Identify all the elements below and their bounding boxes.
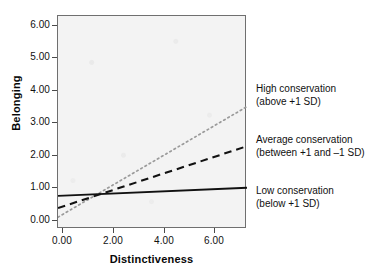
x-tick-label-2: 2.00 <box>93 235 133 246</box>
y-tick-mark-3 <box>52 122 57 123</box>
y-tick-mark-6 <box>52 25 57 26</box>
legend-label-high-line2: (above +1 SD) <box>256 96 388 109</box>
y-tick-label-5: 5.00 <box>16 51 50 62</box>
y-tick-label-6: 6.00 <box>16 19 50 30</box>
plot-lines <box>58 16 247 229</box>
x-tick-mark-6 <box>214 228 215 233</box>
x-tick-mark-0 <box>62 228 63 233</box>
legend-label-low-line1: Low conservation <box>256 185 388 198</box>
series-line-high-conservation <box>58 107 247 218</box>
x-tick-label-4: 4.00 <box>144 235 184 246</box>
legend-item-low-conservation: Low conservation (below +1 SD) <box>256 185 388 210</box>
y-tick-label-2: 2.00 <box>16 149 50 160</box>
legend-label-low-line2: (below +1 SD) <box>256 198 388 211</box>
x-tick-mark-2 <box>113 228 114 233</box>
chart-figure: 6.00 5.00 4.00 3.00 2.00 1.00 0.00 Belon… <box>0 0 388 275</box>
y-tick-label-0: 0.00 <box>16 214 50 225</box>
legend-label-high-line1: High conservation <box>256 83 388 96</box>
y-tick-mark-0 <box>52 220 57 221</box>
legend-item-high-conservation: High conservation (above +1 SD) <box>256 83 388 108</box>
series-line-low-conservation <box>58 188 247 196</box>
legend: High conservation (above +1 SD) Average … <box>256 15 388 228</box>
plot-area <box>57 15 246 228</box>
legend-label-average-line2: (between +1 and –1 SD) <box>256 147 388 160</box>
x-tick-label-0: 0.00 <box>42 235 82 246</box>
x-axis-title: Distinctiveness <box>57 253 246 265</box>
series-line-average-conservation <box>58 146 247 208</box>
y-tick-mark-5 <box>52 57 57 58</box>
legend-label-average-line1: Average conservation <box>256 134 388 147</box>
y-tick-label-1: 1.00 <box>16 181 50 192</box>
y-tick-mark-2 <box>52 155 57 156</box>
y-axis-title: Belonging <box>10 63 22 143</box>
legend-item-average-conservation: Average conservation (between +1 and –1 … <box>256 134 388 159</box>
y-tick-mark-4 <box>52 90 57 91</box>
y-tick-mark-1 <box>52 187 57 188</box>
x-tick-label-6: 6.00 <box>194 235 234 246</box>
x-tick-mark-4 <box>164 228 165 233</box>
